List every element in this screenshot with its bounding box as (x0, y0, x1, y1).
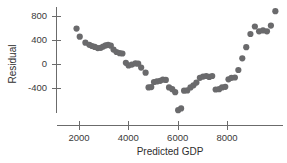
y-tick-label: 400 (31, 34, 47, 45)
x-tick-label: 4000 (118, 132, 139, 143)
scatter-point (77, 34, 83, 40)
y-tick-label: -400 (28, 82, 47, 93)
scatter-point (119, 50, 125, 56)
scatter-point (143, 70, 149, 76)
x-axis-tick-labels: 2000400060008000 (68, 132, 237, 143)
y-tick-label: 0 (42, 58, 47, 69)
scatter-point (272, 8, 278, 14)
scatter-point (243, 44, 249, 50)
y-axis-tick-labels: -4000400800 (28, 10, 47, 93)
scatter-point (239, 55, 245, 61)
scatter-point (235, 67, 241, 73)
chart-canvas: -4000400800 2000400060008000 Predicted G… (0, 0, 287, 163)
scatter-point (163, 77, 169, 83)
x-axis-title: Predicted GDP (137, 146, 204, 157)
scatter-point (268, 23, 274, 29)
scatter-point (252, 23, 258, 29)
x-tick-label: 8000 (216, 132, 237, 143)
x-tick-label: 2000 (68, 132, 89, 143)
scatter-point (247, 31, 253, 37)
scatter-point (232, 74, 238, 80)
scatter-point (209, 73, 215, 79)
scatter-points-layer (73, 8, 278, 113)
scatter-point (264, 28, 270, 34)
y-axis-title: Residual (7, 45, 18, 84)
scatter-point (178, 105, 184, 111)
scatter-point (222, 84, 228, 90)
scatter-point (73, 26, 79, 32)
x-tick-label: 6000 (167, 132, 188, 143)
scatter-point (172, 89, 178, 95)
residual-scatter-chart: -4000400800 2000400060008000 Predicted G… (0, 0, 287, 163)
scatter-point (138, 65, 144, 71)
y-tick-label: 800 (31, 10, 47, 21)
